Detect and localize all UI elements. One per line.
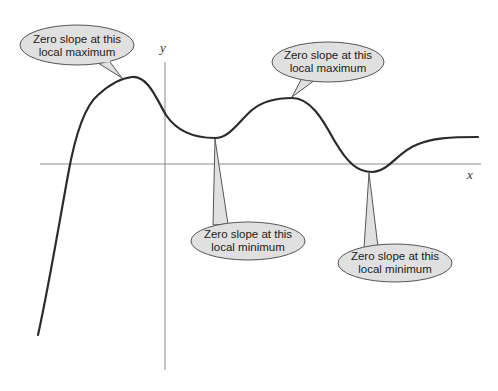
callout-tail — [213, 139, 228, 225]
function-curve — [38, 77, 478, 335]
callout-text-line2: local minimum — [211, 241, 285, 253]
callout-text-line1: Zero slope at this — [33, 33, 121, 45]
callout-text-line2: local maximum — [290, 62, 367, 74]
callout-tail — [364, 173, 378, 248]
callout-text-line2: local maximum — [39, 46, 116, 58]
callout-text-line1: Zero slope at this — [204, 228, 292, 240]
callout-text-line2: local minimum — [358, 263, 432, 275]
callout-local-minimum-center: Zero slope at this local minimum — [191, 139, 305, 260]
extrema-diagram: y x Zero slope at this local maximum Zer… — [0, 0, 498, 391]
callout-local-maximum-right: Zero slope at this local maximum — [272, 42, 384, 97]
x-axis-label: x — [466, 167, 473, 182]
y-axis-label: y — [158, 40, 166, 55]
callout-text-line1: Zero slope at this — [351, 250, 439, 262]
callout-local-minimum-right: Zero slope at this local minimum — [338, 173, 452, 282]
callout-text-line1: Zero slope at this — [284, 49, 372, 61]
callout-tail — [98, 62, 122, 78]
callout-local-maximum-left: Zero slope at this local maximum — [20, 25, 134, 78]
callout-bubble — [20, 25, 134, 65]
